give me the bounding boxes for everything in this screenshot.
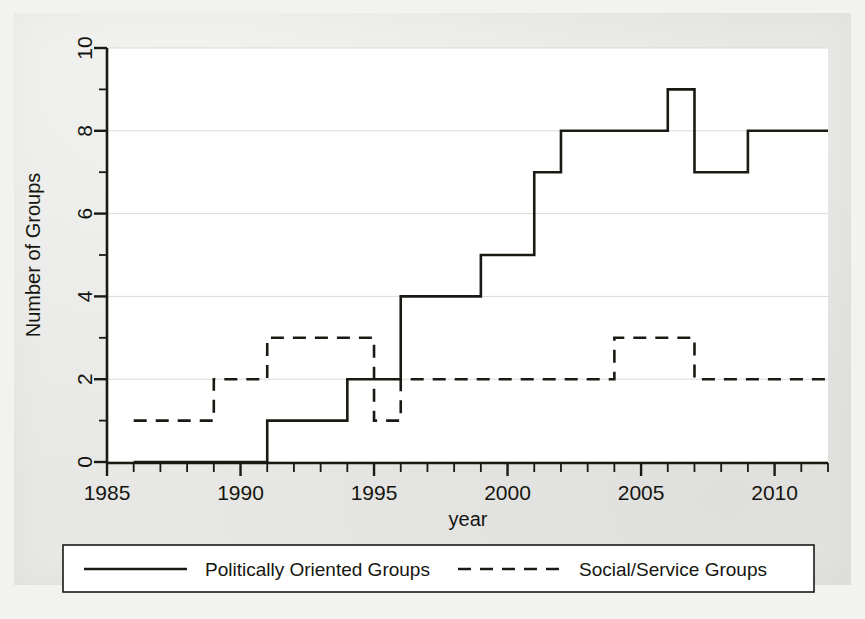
- x-axis-tick-label: 2010: [751, 481, 798, 504]
- y-axis-title: Number of Groups: [22, 173, 44, 338]
- x-axis-ticks: [107, 463, 828, 476]
- y-axis-tick-labels: 0246810: [73, 36, 96, 468]
- legend-label-social-service-groups: Social/Service Groups: [579, 559, 767, 580]
- x-axis-tick-label: 1985: [84, 481, 131, 504]
- x-axis-tick-label: 1990: [217, 481, 264, 504]
- y-axis-ticks: [94, 48, 107, 462]
- x-axis-title: year: [449, 508, 488, 530]
- step-chart-figure: 198519901995200020052010 0246810 year Nu…: [0, 0, 865, 619]
- x-axis-tick-label: 1995: [351, 481, 398, 504]
- y-axis-tick-label: 0: [73, 456, 96, 468]
- x-axis-tick-label: 2005: [618, 481, 665, 504]
- y-axis-tick-label: 10: [73, 36, 96, 59]
- plot-area-background: [107, 48, 828, 462]
- y-axis-tick-label: 4: [73, 290, 96, 302]
- chart-legend: Politically Oriented Groups Social/Servi…: [63, 545, 814, 592]
- x-axis-tick-label: 2000: [484, 481, 531, 504]
- y-axis-tick-label: 8: [73, 125, 96, 137]
- chart-canvas: 198519901995200020052010 0246810 year Nu…: [0, 0, 865, 619]
- legend-label-politically-oriented-groups: Politically Oriented Groups: [205, 559, 430, 580]
- y-axis-tick-label: 6: [73, 208, 96, 220]
- y-axis-tick-label: 2: [73, 373, 96, 385]
- x-axis-tick-labels: 198519901995200020052010: [84, 481, 798, 504]
